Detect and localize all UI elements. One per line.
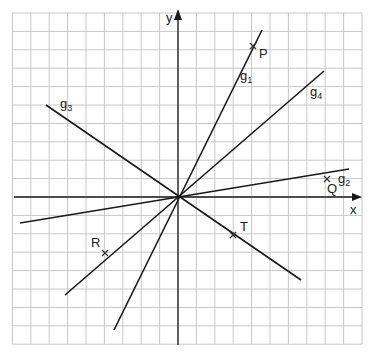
coordinate-diagram: x y g1g2g3g4 PQRT (0, 0, 369, 363)
point-label-p: P (259, 46, 268, 61)
points: PQRT (91, 43, 337, 256)
x-axis-label: x (350, 202, 357, 217)
point-label-q: Q (327, 181, 337, 196)
point-label-t: T (240, 219, 248, 234)
line-g3 (46, 105, 301, 280)
y-axis-label: y (166, 10, 173, 25)
point-label-r: R (91, 235, 100, 250)
x-axis-arrow-icon (352, 193, 362, 201)
point-p: P (250, 43, 268, 61)
lines: g1g2g3g4 (20, 30, 350, 330)
line-label-g2: g2 (338, 171, 350, 188)
point-r: R (91, 235, 108, 256)
line-label-g3: g3 (60, 96, 72, 113)
line-label-g1: g1 (240, 68, 252, 85)
y-axis-arrow-icon (174, 9, 182, 20)
